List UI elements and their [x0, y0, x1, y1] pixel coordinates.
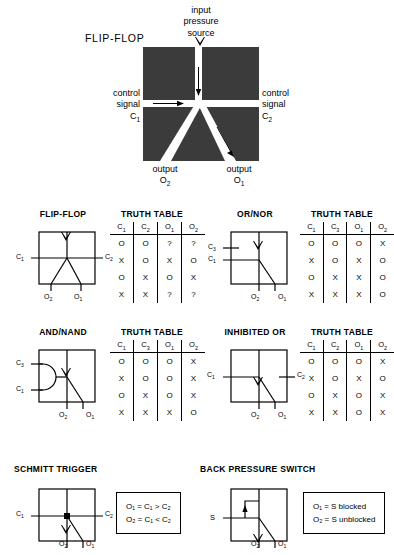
- truth-table-cell: O: [347, 387, 371, 404]
- truth-table: C1C3O1O2OOOXXOOXOXOXXXXO: [110, 340, 205, 421]
- truth-table-header: O1: [347, 222, 371, 235]
- truth-table-cell: X: [347, 286, 371, 303]
- schmitt-input-right-label: C2: [105, 510, 113, 519]
- truth-table-cell: O: [323, 370, 347, 387]
- ornor-symbol-svg: [223, 231, 295, 293]
- truth-table-cell: X: [110, 370, 134, 387]
- truth-table-row: XOXO: [110, 252, 205, 269]
- inhibited-or-output-left-label: O2: [251, 411, 259, 420]
- truth-table-cell: O: [134, 235, 158, 253]
- truth-table: C1C2O1O2OOOXXOXOOXOXXXOX: [300, 340, 394, 421]
- truth-table-row: XX??: [110, 286, 205, 303]
- andnand-symbol: [31, 349, 103, 415]
- truth-table-cell: X: [300, 370, 323, 387]
- truth-table-cell: X: [300, 286, 323, 303]
- truth-table-cell: O: [110, 235, 134, 253]
- truth-table-header: O2: [182, 340, 206, 353]
- cell-title-ornor: OR/NOR: [212, 209, 298, 219]
- truth-table-cell: O: [371, 252, 394, 269]
- truth-table-row: OOOX: [110, 353, 205, 371]
- truth-table-cell: O: [300, 387, 323, 404]
- backpressure-input-label: S: [210, 513, 215, 522]
- truth-table-cell: X: [182, 353, 206, 371]
- truth-table-row: XXXO: [300, 286, 394, 303]
- truth-table-cell: X: [300, 252, 323, 269]
- cell-title-inhibited-or: INHIBITED OR: [212, 327, 298, 337]
- truth-table-header: C2: [323, 340, 347, 353]
- flipflop-output-left-label: O2: [44, 293, 52, 302]
- truth-table-cell: X: [110, 252, 134, 269]
- flipflop-symbol-svg: [31, 231, 103, 293]
- ornor-input-upper-label: C3: [208, 243, 216, 252]
- truth-table-header: O2: [371, 340, 394, 353]
- hero-output-left-label: output O2: [138, 164, 192, 188]
- truth-table-cell: X: [323, 404, 347, 421]
- truth-table-row: OO??: [110, 235, 205, 253]
- truth-table-cell: X: [347, 269, 371, 286]
- cell-title-backpressure: BACK PRESSURE SWITCH: [200, 464, 326, 474]
- ornor-output-left-label: O2: [251, 293, 259, 302]
- flipflop-symbol: [31, 231, 103, 297]
- hero-output-right-label: output O1: [212, 164, 266, 188]
- truth-table-cell: ?: [158, 286, 182, 303]
- truth-table-cell: O: [158, 387, 182, 404]
- truth-table-cell: O: [134, 353, 158, 371]
- inhibited-or-symbol: [223, 349, 295, 415]
- truth-table-header: O2: [371, 222, 394, 235]
- truth-table: C1C3O1O2OOOXXOXOOXXOXXXO: [300, 222, 394, 303]
- truth-table-cell: X: [323, 387, 347, 404]
- truth-table-row: XXOX: [300, 404, 394, 421]
- truth-table-header: C1: [300, 340, 323, 353]
- andnand-output-left-label: O2: [59, 411, 67, 420]
- truth-table-cell: X: [323, 286, 347, 303]
- truth-table-cell: X: [323, 269, 347, 286]
- truth-table-header: O1: [347, 340, 371, 353]
- ornor-input-lower-label: C1: [208, 255, 216, 264]
- truth-table-header: C1: [110, 340, 134, 353]
- inhibited-or-symbol-svg: [223, 349, 295, 411]
- truth-table-row: XXXO: [110, 404, 205, 421]
- truth-table-cell: X: [182, 269, 206, 286]
- schmitt-formula-box: O₁ = C₁ > C₂ O₂ = C₁ < C₂: [116, 492, 181, 534]
- truth-table-cell: O: [300, 269, 323, 286]
- hero-control-right-line1: control: [262, 88, 289, 98]
- truth-table-cell: X: [371, 353, 394, 371]
- truth-table-row: XOXO: [300, 370, 394, 387]
- truth-table-cell: O: [300, 353, 323, 371]
- hero-output-right-o: O1: [234, 175, 245, 185]
- cell-title-schmitt: SCHMITT TRIGGER: [14, 464, 112, 474]
- truth-table-header: C2: [134, 222, 158, 235]
- flipflop-output-right-label: O1: [74, 293, 82, 302]
- truth-table-row: OXOX: [110, 387, 205, 404]
- truth-table-cell: O: [110, 269, 134, 286]
- hero-control-right-label: control signal C2: [262, 88, 318, 123]
- hero-control-left-label: control signal C1: [88, 88, 140, 123]
- truth-table-cell: O: [158, 269, 182, 286]
- hero-input-label: input pressure source: [162, 5, 240, 39]
- truth-table-cell: X: [347, 370, 371, 387]
- truth-table-cell: X: [158, 404, 182, 421]
- cell-title-andnand: AND/NAND: [20, 327, 106, 337]
- truth-table-inhibited-or: C1C2O1O2OOOXXOXOOXOXXXOX: [300, 340, 394, 421]
- truth-table-cell: X: [371, 404, 394, 421]
- truth-table-cell: O: [323, 235, 347, 253]
- backpressure-formula-line2: O₂ = S unblocked: [313, 513, 375, 526]
- truth-table-cell: X: [134, 387, 158, 404]
- truth-table-header: O2: [182, 222, 206, 235]
- truth-table-cell: O: [371, 286, 394, 303]
- truth-table-cell: X: [110, 404, 134, 421]
- truth-table-row: OOOX: [300, 353, 394, 371]
- truth-table-cell: O: [134, 370, 158, 387]
- schmitt-output-right-label: O1: [86, 540, 94, 549]
- truth-table-cell: O: [300, 235, 323, 253]
- schmitt-formula-line1: O₁ = C₁ > C₂: [126, 500, 171, 513]
- truth-table: C1C2O1O2OO??XOXOOXOXXX??: [110, 222, 205, 303]
- truth-table-cell: O: [323, 252, 347, 269]
- truth-table-flipflop: C1C2O1O2OO??XOXOOXOXXX??: [110, 222, 205, 303]
- hero-control-right-line2: signal: [262, 99, 286, 109]
- hero-control-right-c: C2: [262, 111, 272, 121]
- truth-table-heading-inhibited-or: TRUTH TABLE: [298, 327, 386, 337]
- hero-flipflop-figure: [143, 47, 259, 161]
- hero-input-triangle-icon: [195, 37, 206, 46]
- cell-title-flipflop: FLIP-FLOP: [20, 209, 106, 219]
